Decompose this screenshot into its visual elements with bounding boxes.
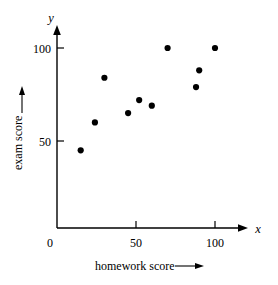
plot-canvas: 100 50 0 50 100 y x exam score homework … (0, 0, 278, 285)
y-axis-arrowhead (53, 25, 61, 35)
data-points-group (78, 45, 219, 153)
data-point (92, 119, 98, 125)
data-point (78, 147, 84, 153)
data-point (165, 45, 171, 51)
y-axis-title: exam score (11, 116, 25, 170)
data-point (101, 75, 107, 81)
x-axis-title: homework score (95, 259, 175, 273)
data-point (193, 84, 199, 90)
y-ticklabel-100: 100 (33, 42, 51, 56)
data-point (212, 45, 218, 51)
y-axis-title-arrowhead (19, 86, 25, 95)
scatter-plot-figure: 100 50 0 50 100 y x exam score homework … (0, 0, 278, 285)
data-point (196, 67, 202, 73)
x-axis-title-arrowhead (195, 263, 204, 269)
x-ticklabel-50: 50 (130, 236, 142, 250)
data-point (125, 110, 131, 116)
data-point (136, 97, 142, 103)
x-ticklabel-100: 100 (206, 236, 224, 250)
y-axis-variable-label: y (46, 11, 54, 25)
y-ticklabel-50: 50 (39, 135, 51, 149)
x-axis-arrowhead (238, 224, 248, 232)
data-point (149, 103, 155, 109)
x-ticklabel-0: 0 (47, 236, 53, 250)
x-axis-variable-label: x (254, 222, 261, 236)
